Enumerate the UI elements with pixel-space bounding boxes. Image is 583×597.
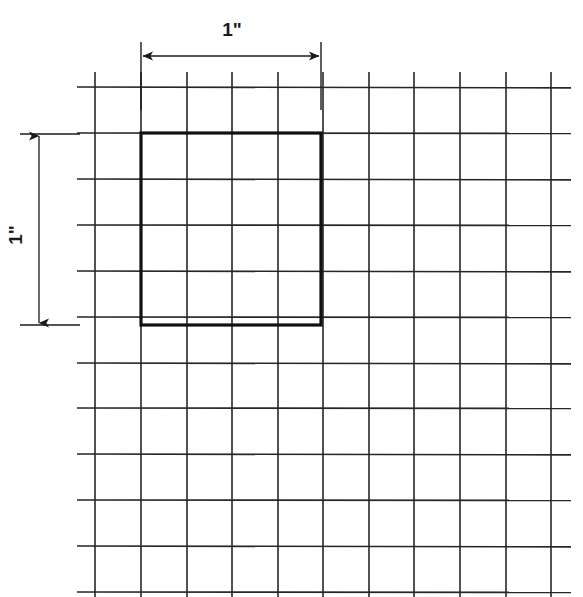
figure-canvas: 1" 1" xyxy=(0,0,583,597)
grid-line-horizontal xyxy=(77,271,571,272)
grid-line-horizontal xyxy=(77,87,571,88)
grid-diagram-svg: 1" 1" xyxy=(0,0,583,597)
grid-line-horizontal xyxy=(77,363,571,364)
vertical-dimension-label: 1" xyxy=(5,225,26,245)
horizontal-dimension-label: 1" xyxy=(222,19,242,40)
canvas-background xyxy=(0,0,583,597)
grid-line-horizontal xyxy=(77,454,571,455)
grid-line-horizontal xyxy=(77,179,571,180)
grid-line-horizontal xyxy=(77,546,571,547)
